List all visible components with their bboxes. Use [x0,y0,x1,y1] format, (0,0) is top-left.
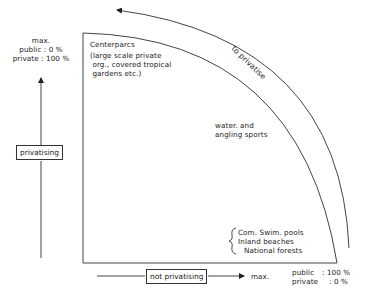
region-water-line-1: angling sports [215,130,268,139]
x-max-private-key: private [292,277,322,286]
region-public-line-0: Com. Swim. pools [238,228,304,237]
region-centerparcs: Centerparcs (large scale private org., c… [90,40,171,78]
x-max-private-val: : 0 % [322,277,348,286]
region-centerparcs-line-0: Centerparcs [90,40,171,49]
brace-icon [229,228,236,254]
region-public-line-1: Inland beaches [238,237,304,246]
region-centerparcs-line-3: gardens etc.) [90,69,171,78]
region-water-line-0: water. and [215,121,268,130]
privatising-label-box: privatising [16,145,63,160]
region-centerparcs-line-1: (large scale private [90,51,171,60]
region-centerparcs-line-2: org., covered tropical [90,60,171,69]
x-max-public-val: : 100 % [322,268,348,277]
x-max-public-key: public [292,268,322,277]
y-max-label: max. public : 0 % private : 100 % [8,36,74,63]
region-water: water. and angling sports [215,121,268,139]
x-max-text: max. [251,272,269,281]
x-max-label: public: 100 % private: 0 % [292,268,348,286]
region-public-facilities: Com. Swim. pools Inland beaches National… [238,228,304,255]
y-max-title: max. [8,36,74,45]
region-public-line-2: National forests [238,246,304,255]
not-privatising-label-box: not privatising [146,269,207,284]
y-max-public: public : 0 % [8,45,74,54]
y-max-private: private : 100 % [8,54,74,63]
